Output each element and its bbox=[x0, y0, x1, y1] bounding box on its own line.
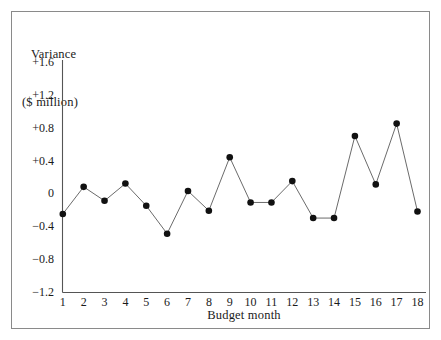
data-point bbox=[352, 133, 359, 140]
x-tick-label: 12 bbox=[281, 296, 303, 308]
data-point bbox=[393, 120, 400, 127]
x-tick-label: 7 bbox=[177, 296, 199, 308]
y-tick-label: +0.8 bbox=[10, 122, 54, 134]
variance-series-line bbox=[63, 124, 418, 234]
x-tick-label: 3 bbox=[94, 296, 116, 308]
x-tick-label: 18 bbox=[407, 296, 429, 308]
data-point bbox=[185, 188, 192, 195]
x-tick-label: 6 bbox=[156, 296, 178, 308]
x-tick-label: 14 bbox=[323, 296, 345, 308]
data-point bbox=[247, 199, 254, 206]
data-point bbox=[372, 181, 379, 188]
x-tick-label: 8 bbox=[198, 296, 220, 308]
data-point bbox=[80, 184, 87, 191]
data-point bbox=[164, 230, 171, 237]
x-tick-label: 16 bbox=[365, 296, 387, 308]
data-point bbox=[331, 215, 338, 222]
x-tick-label: 4 bbox=[114, 296, 136, 308]
y-tick-label: +1.2 bbox=[10, 89, 54, 101]
data-point bbox=[289, 178, 296, 185]
data-point bbox=[101, 198, 108, 205]
x-tick-label: 10 bbox=[240, 296, 262, 308]
y-tick-label: +0.4 bbox=[10, 155, 54, 167]
x-tick-label: 13 bbox=[302, 296, 324, 308]
x-tick-label: 1 bbox=[52, 296, 74, 308]
x-axis-title: Budget month bbox=[62, 308, 426, 323]
x-tick-label: 15 bbox=[344, 296, 366, 308]
data-point bbox=[122, 180, 129, 187]
x-tick-label: 11 bbox=[260, 296, 282, 308]
data-point bbox=[226, 154, 233, 161]
variance-chart-figure: Variance ($ million) +1.6+1.2+0.8+0.40−0… bbox=[0, 0, 441, 340]
plot-area bbox=[0, 0, 441, 340]
y-tick-label: −0.4 bbox=[10, 220, 54, 232]
y-tick-label: −1.2 bbox=[10, 286, 54, 298]
data-point bbox=[206, 207, 213, 214]
x-tick-label: 17 bbox=[386, 296, 408, 308]
y-tick-label: −0.8 bbox=[10, 253, 54, 265]
y-tick-label: +1.6 bbox=[10, 56, 54, 68]
data-point bbox=[414, 208, 421, 215]
y-tick-label: 0 bbox=[10, 187, 54, 199]
variance-series-markers bbox=[60, 120, 421, 237]
x-tick-label: 2 bbox=[73, 296, 95, 308]
data-point bbox=[310, 215, 317, 222]
data-point bbox=[268, 199, 275, 206]
data-point bbox=[143, 202, 150, 209]
x-tick-label: 5 bbox=[135, 296, 157, 308]
data-point bbox=[60, 211, 67, 218]
x-tick-label: 9 bbox=[219, 296, 241, 308]
